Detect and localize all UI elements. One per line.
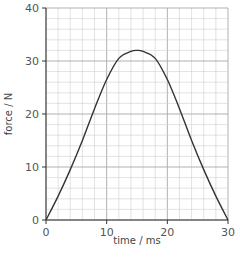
x-tick-label: 20 [160, 226, 174, 239]
force-time-chart: 010203040 0102030 time / ms force / N [0, 0, 240, 261]
y-tick-labels: 010203040 [25, 2, 46, 227]
x-tick-label: 10 [100, 226, 114, 239]
y-tick-label: 20 [25, 108, 39, 121]
y-axis-label: force / N [3, 93, 14, 135]
x-tick-label: 30 [221, 226, 235, 239]
x-tick-label: 0 [43, 226, 50, 239]
y-tick-label: 30 [25, 55, 39, 68]
y-tick-label: 0 [32, 214, 39, 227]
x-axis-label: time / ms [113, 235, 160, 246]
y-tick-label: 40 [25, 2, 39, 15]
y-tick-label: 10 [25, 161, 39, 174]
grid [46, 8, 228, 220]
